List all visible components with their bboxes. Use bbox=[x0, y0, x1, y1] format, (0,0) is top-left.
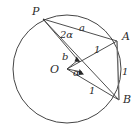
diagram-canvas bbox=[0, 0, 139, 136]
measure-label-chord-PA: a bbox=[79, 23, 85, 33]
measure-label-segment-PO: b bbox=[62, 52, 68, 62]
measure-label-chord-AB: 1 bbox=[122, 67, 128, 77]
point-label-P: P bbox=[32, 6, 39, 17]
angle-label-2alpha: 2α bbox=[60, 30, 73, 40]
geometry-figure: P A B O a b 1 1 1 2α α bbox=[0, 0, 139, 136]
chord-AB bbox=[117, 41, 119, 100]
point-label-B: B bbox=[123, 94, 131, 105]
measure-label-radius-OB: 1 bbox=[89, 86, 95, 96]
angle-label-alpha: α bbox=[73, 68, 80, 78]
radius-OA bbox=[67, 41, 117, 69]
measure-label-radius-OA: 1 bbox=[94, 45, 100, 55]
point-label-O: O bbox=[50, 64, 59, 75]
point-label-A: A bbox=[122, 31, 130, 42]
